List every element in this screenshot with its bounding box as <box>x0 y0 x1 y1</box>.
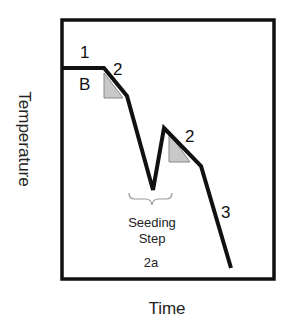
step-1-label: 1 <box>80 43 89 62</box>
step-2-second-label: 2 <box>185 127 194 146</box>
seeding-label-line2: Step <box>139 231 166 246</box>
seeding-label-line1: Seeding <box>128 215 176 230</box>
boundary-b-label: B <box>79 75 90 94</box>
seeding-step-id: 2a <box>144 255 159 270</box>
step-3-label: 3 <box>221 203 230 222</box>
plot-frame <box>62 20 274 279</box>
x-axis-label: Time <box>148 299 185 318</box>
step-2-first-label: 2 <box>113 60 122 79</box>
y-axis-label: Temperature <box>15 91 34 186</box>
temperature-time-diagram: 1 B 2 2 3 Seeding Step 2a Time Temperatu… <box>0 0 286 332</box>
